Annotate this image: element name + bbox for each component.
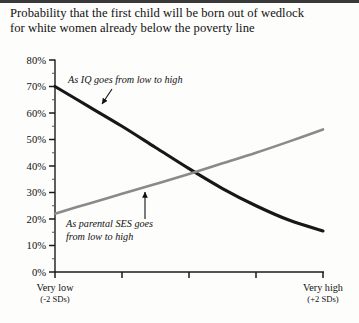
y-tick-label: 40% [27, 161, 47, 172]
x-axis: Very low(-2 SDs)Very high(+2 SDs) [36, 272, 342, 304]
annotation-arrow [102, 89, 112, 104]
x-axis-caption: Very low [36, 282, 74, 293]
annotation-text: from low to high [66, 231, 133, 242]
annotations: As IQ goes from low to highAs parental S… [65, 74, 183, 242]
x-axis-caption-sub: (-2 SDs) [40, 294, 69, 304]
y-tick-label: 80% [27, 55, 47, 66]
y-tick-label: 0% [32, 267, 46, 278]
x-axis-caption-sub: (+2 SDs) [307, 294, 338, 304]
y-tick-label: 30% [27, 187, 47, 198]
y-tick-label: 20% [27, 214, 47, 225]
y-axis: 0%10%20%30%40%50%60%70%80% [27, 55, 55, 278]
annotation-text: As parental SES goes [65, 218, 153, 229]
y-tick-label: 50% [27, 134, 47, 145]
series-lines [55, 87, 323, 231]
plot-area: 0%10%20%30%40%50%60%70%80% Very low(-2 S… [0, 0, 359, 323]
y-tick-label: 60% [27, 108, 47, 119]
y-tick-label: 70% [27, 81, 47, 92]
chart-figure: Probability that the first child will be… [0, 0, 359, 323]
series-line-ses [55, 129, 323, 213]
series-line-iq [55, 87, 323, 231]
annotation-text: As IQ goes from low to high [67, 74, 183, 85]
y-tick-label: 10% [27, 240, 47, 251]
x-axis-caption: Very high [303, 282, 343, 293]
